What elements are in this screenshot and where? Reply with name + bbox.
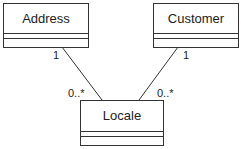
- class-name: Address: [4, 4, 88, 33]
- class-name: Customer: [154, 4, 238, 33]
- class-customer[interactable]: Customer: [153, 3, 239, 48]
- class-address[interactable]: Address: [3, 3, 89, 48]
- operations-compartment: [4, 38, 88, 46]
- multiplicity-locale-end-right: 0..*: [157, 88, 174, 99]
- class-name: Locale: [81, 101, 163, 131]
- multiplicity-locale-end-left: 0..*: [68, 88, 85, 99]
- multiplicity-address-end: 1: [53, 50, 59, 61]
- operations-compartment: [154, 38, 238, 46]
- multiplicity-customer-end: 1: [183, 50, 189, 61]
- class-locale[interactable]: Locale: [80, 100, 164, 146]
- operations-compartment: [81, 136, 163, 144]
